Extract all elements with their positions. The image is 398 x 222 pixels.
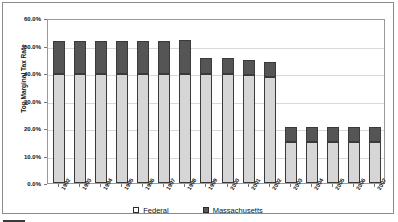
y-axis-tick-mark (44, 184, 47, 185)
bar-column (95, 18, 107, 183)
x-axis-tick-mark (311, 184, 312, 187)
bar-column (306, 18, 318, 183)
bar-segment-massachusetts (222, 58, 234, 74)
bar-series-group (48, 20, 384, 183)
bar-segment-massachusetts (264, 62, 276, 77)
bar-column (200, 18, 212, 183)
x-axis-tick-mark (269, 184, 270, 187)
x-axis-tick-mark (332, 184, 333, 187)
figure-frame: Top Marginal Tax Rate 0.0%10.0%20.0%30.0… (2, 2, 394, 214)
y-axis-tick-mark (44, 102, 47, 103)
bar-segment-federal (243, 75, 255, 183)
bar-column (348, 18, 360, 183)
legend-item-federal: Federal (133, 206, 168, 215)
bar-column (74, 18, 86, 183)
bar-segment-federal (53, 74, 65, 183)
x-axis-tick-mark (100, 184, 101, 187)
y-axis-tick-label: 0.0% (3, 181, 41, 187)
bar-segment-massachusetts (369, 127, 381, 142)
bar-segment-massachusetts (327, 127, 339, 142)
bar-column (179, 18, 191, 183)
bar-segment-federal (285, 142, 297, 183)
bar-segment-massachusetts (348, 127, 360, 142)
x-axis-tick-mark (353, 184, 354, 187)
massachusetts-swatch-icon (203, 207, 209, 213)
bar-segment-massachusetts (158, 41, 170, 74)
y-axis-tick-mark (44, 129, 47, 130)
bar-column (158, 18, 170, 183)
legend-item-massachusetts: Massachusetts (203, 206, 263, 215)
bar-segment-massachusetts (306, 127, 318, 142)
federal-swatch-icon (133, 207, 139, 213)
bar-column (222, 18, 234, 183)
bar-segment-federal (95, 74, 107, 183)
x-axis-tick-mark (121, 184, 122, 187)
bar-segment-federal (222, 74, 234, 183)
bar-column (285, 18, 297, 183)
bar-column (53, 18, 65, 183)
bar-segment-massachusetts (179, 40, 191, 74)
bar-column (327, 18, 339, 183)
bar-segment-massachusetts (285, 127, 297, 142)
x-axis-tick-mark (290, 184, 291, 187)
chart-legend: Federal Massachusetts (3, 203, 393, 217)
y-axis-title: Top Marginal Tax Rate (20, 14, 27, 144)
bar-segment-federal (348, 142, 360, 183)
x-axis-tick-mark (184, 184, 185, 187)
corner-mark (3, 220, 25, 222)
legend-label-federal: Federal (143, 206, 168, 215)
bar-column (264, 18, 276, 183)
bar-segment-federal (179, 74, 191, 183)
y-axis-tick-label: 40.0% (3, 71, 41, 77)
y-axis-tick-mark (44, 47, 47, 48)
x-axis-tick-mark (227, 184, 228, 187)
bar-segment-massachusetts (137, 41, 149, 74)
bar-segment-massachusetts (95, 41, 107, 74)
bar-segment-federal (74, 74, 86, 183)
bar-segment-federal (158, 74, 170, 183)
y-axis-tick-label: 50.0% (3, 44, 41, 50)
bar-column (116, 18, 128, 183)
y-axis-tick-label: 10.0% (3, 154, 41, 160)
y-axis-tick-label: 60.0% (3, 16, 41, 22)
x-axis-tick-mark (58, 184, 59, 187)
bar-segment-federal (306, 142, 318, 183)
y-axis-tick-label: 20.0% (3, 126, 41, 132)
y-axis-tick-label: 30.0% (3, 99, 41, 105)
bar-segment-federal (369, 142, 381, 183)
y-axis-tick-mark (44, 157, 47, 158)
x-axis-tick-mark (79, 184, 80, 187)
bar-column (369, 18, 381, 183)
bar-segment-massachusetts (243, 60, 255, 75)
bar-segment-federal (200, 74, 212, 183)
x-axis-tick-mark (163, 184, 164, 187)
bar-segment-federal (116, 74, 128, 183)
y-axis-tick-mark (44, 74, 47, 75)
bar-segment-massachusetts (74, 41, 86, 74)
bar-segment-federal (327, 142, 339, 183)
chart-page: Top Marginal Tax Rate 0.0%10.0%20.0%30.0… (0, 0, 398, 222)
bar-column (243, 18, 255, 183)
bar-column (137, 18, 149, 183)
bar-segment-massachusetts (200, 58, 212, 75)
y-axis-tick-mark (44, 19, 47, 20)
bar-segment-federal (137, 74, 149, 183)
bar-segment-massachusetts (116, 41, 128, 74)
legend-label-massachusetts: Massachusetts (213, 206, 263, 215)
x-axis-tick-mark (142, 184, 143, 187)
plot-area (47, 19, 385, 184)
x-axis-tick-mark (248, 184, 249, 187)
bar-segment-massachusetts (53, 41, 65, 74)
bar-segment-federal (264, 77, 276, 183)
